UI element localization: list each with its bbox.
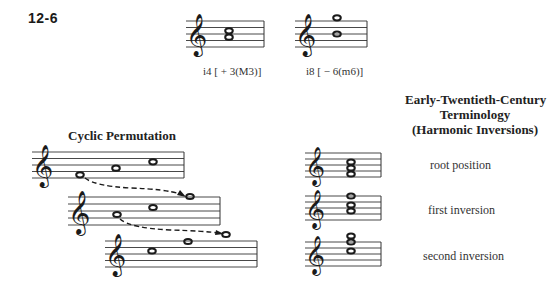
whole-note-icon [184,239,192,244]
treble-clef-icon: 𝄞 [68,190,90,236]
treble-clef-icon: 𝄞 [186,14,207,57]
cyclic-staff-3: 𝄞 [105,232,257,277]
whole-note-icon [186,194,194,199]
label-root-position: root position [430,158,491,173]
treble-clef-icon: 𝄞 [32,145,53,188]
whole-note-icon [225,35,233,40]
whole-note-icon [76,172,84,177]
music-notation: 𝄞 𝄞 𝄞 𝄞 [0,0,550,288]
terminology-title-line3: (Harmonic Inversions) [405,122,545,137]
whole-note-icon [149,205,157,210]
cyclic-staff-1: 𝄞 [32,145,184,188]
whole-note-icon [347,159,355,164]
whole-note-icon [347,233,355,238]
treble-clef-icon: 𝄞 [105,234,126,277]
treble-clef-icon: 𝄞 [305,234,325,276]
label-first-inversion: first inversion [428,203,495,218]
whole-note-icon [149,159,157,164]
whole-note-icon [347,208,355,213]
inversion-staff-root: 𝄞 [305,145,381,187]
treble-clef-icon: 𝄞 [305,188,325,230]
terminology-title: Early-Twentieth-Century Terminology (Har… [405,92,545,137]
whole-note-icon [225,28,233,33]
whole-note-icon [347,165,355,170]
label-second-inversion: second inversion [423,249,504,264]
cyclic-staff-2: 𝄞 [68,190,220,236]
whole-note-icon [112,166,120,171]
top-staff-2: 𝄞 [295,14,367,57]
arrowhead-icon [177,190,186,197]
whole-note-icon [347,248,355,253]
treble-clef-icon: 𝄞 [295,14,316,57]
whole-note-icon [222,232,230,237]
inversion-staff-second: 𝄞 [305,233,381,276]
whole-note-icon [148,248,156,253]
top-staff-1: 𝄞 [186,14,264,57]
whole-note-icon [113,212,121,217]
terminology-title-line1: Early-Twentieth-Century [405,92,545,107]
inversion-staff-first: 𝄞 [305,188,381,230]
interval-caption-1: i4 [ + 3(M3)] [203,65,261,77]
interval-caption-2: i8 [ − 6(m6)] [306,65,363,77]
whole-note-icon [347,202,355,207]
cyclic-permutation-title: Cyclic Permutation [68,128,176,143]
dashed-arrow-icon [120,219,218,233]
whole-note-icon [347,171,355,176]
dashed-arrow-icon [85,178,180,194]
terminology-title-line2: Terminology [405,107,545,122]
whole-note-icon [333,15,341,20]
treble-clef-icon: 𝄞 [305,145,325,187]
